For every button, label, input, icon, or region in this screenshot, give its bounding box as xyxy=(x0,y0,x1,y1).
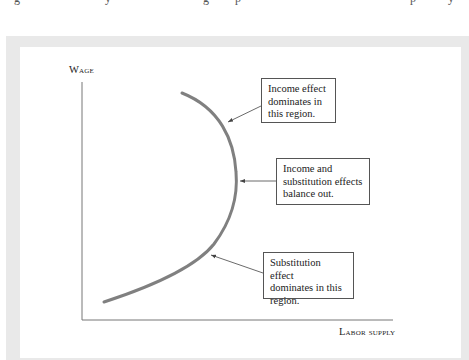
callout-line: Income effect xyxy=(268,83,329,96)
arrow-income xyxy=(228,106,261,122)
callout-line: dominates in this xyxy=(270,282,347,295)
callout-substitution-effect: Substitution effect dominates in this re… xyxy=(263,252,354,299)
labor-supply-curve xyxy=(104,93,236,302)
callout-line: balance out. xyxy=(283,188,363,201)
callout-line: Substitution effect xyxy=(270,257,347,282)
callout-line: Income and xyxy=(283,163,363,176)
arrow-substitution xyxy=(211,255,263,273)
y-axis-label: Wage xyxy=(69,64,94,75)
x-axis-label: Labor supply xyxy=(339,326,395,337)
callout-balance: Income and substitution effects balance … xyxy=(276,158,370,205)
callout-line: region. xyxy=(270,295,347,308)
callout-line: this region. xyxy=(268,108,329,121)
diagram-canvas xyxy=(0,0,469,360)
callout-income-effect: Income effect dominates in this region. xyxy=(261,78,336,123)
callout-line: dominates in xyxy=(268,96,329,109)
callout-line: substitution effects xyxy=(283,176,363,189)
